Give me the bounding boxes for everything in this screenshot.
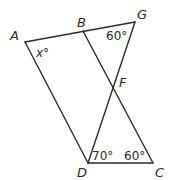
angle-labels: x° 60° 70° 60° (35, 29, 145, 163)
geometry-diagram: A B G F D C x° 60° 70° 60° (0, 0, 172, 180)
point-label-g: G (137, 7, 147, 22)
angle-label-g: 60° (106, 29, 127, 43)
angle-label-a: x° (35, 46, 49, 60)
point-label-a: A (9, 28, 19, 43)
point-label-c: C (155, 165, 165, 180)
segment-bc (83, 31, 153, 163)
segments (25, 22, 153, 163)
angle-label-c: 60° (124, 149, 145, 163)
point-label-b: B (77, 15, 86, 30)
segment-ad (25, 42, 88, 163)
point-label-f: F (119, 75, 127, 90)
segment-gd (88, 22, 135, 163)
point-label-d: D (77, 165, 87, 180)
angle-label-d: 70° (92, 149, 113, 163)
